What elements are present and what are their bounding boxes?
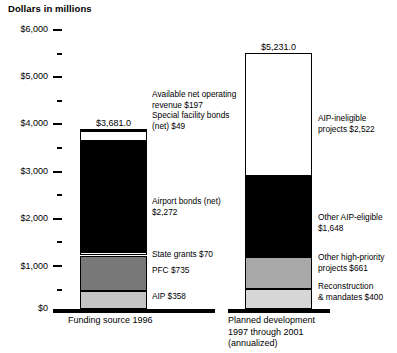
ytick-label-3000: $3,000 bbox=[2, 166, 48, 176]
baseline-left bbox=[53, 309, 215, 313]
ytick-mark-500 bbox=[57, 289, 62, 291]
ytick-mark-1500 bbox=[57, 241, 62, 243]
callout-reconstruction-mandates: Reconstruction & mandates $400 bbox=[318, 281, 383, 302]
bar-segment-aip[interactable] bbox=[80, 291, 147, 309]
ytick-mark-2000 bbox=[53, 218, 62, 220]
ytick-label-6000: $6,000 bbox=[2, 24, 48, 34]
bar-planned-development[interactable] bbox=[245, 53, 312, 309]
ytick-mark-2500 bbox=[57, 194, 62, 196]
bar-total-label-planned: $5,231.0 bbox=[245, 42, 312, 52]
callout-pfc: PFC $735 bbox=[152, 265, 189, 276]
callout-other-aip-eligible: Other AIP-eligible $1,648 bbox=[318, 212, 383, 233]
ytick-mark-4000 bbox=[53, 123, 62, 125]
ytick-mark-5500 bbox=[57, 53, 62, 55]
ytick-mark-3500 bbox=[57, 147, 62, 149]
ytick-mark-4500 bbox=[57, 100, 62, 102]
ytick-mark-3000 bbox=[53, 171, 62, 173]
ytick-label-1000: $1,000 bbox=[2, 261, 48, 271]
callout-other-high-priority: Other high-priority projects $661 bbox=[318, 252, 384, 273]
callout-available-net-operating-revenue: Available net operating revenue $197 bbox=[152, 89, 236, 110]
chart-axis-title: Dollars in millions bbox=[8, 3, 92, 14]
ytick-mark-6000 bbox=[53, 29, 62, 31]
bar-segment-other-aip-eligible[interactable] bbox=[245, 176, 312, 257]
bar-segment-aip-ineligible-projects[interactable] bbox=[245, 53, 312, 176]
bar-segment-reconstruction-mandates[interactable] bbox=[245, 289, 312, 309]
chart-canvas: Dollars in millions $6,000 $5,000 $4,000… bbox=[0, 0, 397, 353]
ytick-label-0: $0 bbox=[2, 303, 48, 313]
ytick-mark-5000 bbox=[53, 76, 62, 78]
bar-funding-source-1996[interactable] bbox=[80, 129, 147, 309]
ytick-label-5000: $5,000 bbox=[2, 71, 48, 81]
category-label-funding-source-1996: Funding source 1996 bbox=[68, 315, 153, 327]
category-label-planned-development: Planned development 1997 through 2001 (a… bbox=[228, 315, 315, 350]
callout-state-grants: State grants $70 bbox=[152, 249, 213, 260]
bar-segment-other-high-priority[interactable] bbox=[245, 257, 312, 289]
ytick-mark-1000 bbox=[53, 265, 62, 267]
bar-segment-airport-bonds[interactable] bbox=[80, 141, 147, 252]
ytick-label-4000: $4,000 bbox=[2, 118, 48, 128]
bar-total-label-1996: $3,681.0 bbox=[80, 118, 147, 128]
callout-aip: AIP $358 bbox=[152, 291, 186, 302]
baseline-right bbox=[228, 309, 330, 313]
ytick-label-2000: $2,000 bbox=[2, 213, 48, 223]
bar-segment-available-net-operating-revenue[interactable] bbox=[80, 131, 147, 141]
callout-aip-ineligible-projects: AIP-ineligible projects $2,522 bbox=[318, 113, 375, 134]
callout-special-facility-bonds: Special facility bonds (net) $49 bbox=[152, 110, 229, 131]
callout-airport-bonds: Airport bonds (net) $2,272 bbox=[152, 196, 221, 217]
bar-segment-pfc[interactable] bbox=[80, 256, 147, 292]
